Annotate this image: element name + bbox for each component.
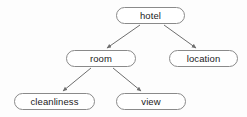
- node-hotel[interactable]: hotel: [116, 7, 185, 24]
- node-location-label: location: [187, 53, 221, 63]
- edge-hotel-location: [164, 25, 196, 48]
- node-room-label: room: [90, 53, 112, 63]
- node-room[interactable]: room: [66, 50, 136, 67]
- node-cleanliness[interactable]: cleanliness: [14, 93, 95, 110]
- node-location[interactable]: location: [169, 50, 238, 67]
- edge-hotel-room: [107, 25, 140, 48]
- edge-room-cleanliness: [63, 68, 91, 91]
- node-cleanliness-label: cleanliness: [30, 96, 78, 106]
- diagram-canvas: hotel room location cleanliness view: [0, 0, 247, 117]
- node-view[interactable]: view: [116, 93, 186, 110]
- node-hotel-label: hotel: [140, 10, 161, 20]
- node-view-label: view: [141, 96, 160, 106]
- edge-room-view: [113, 68, 141, 91]
